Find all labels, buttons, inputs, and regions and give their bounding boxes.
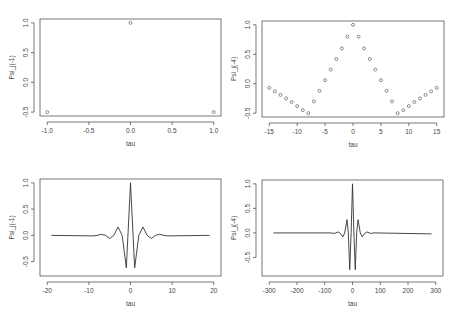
data-point — [329, 68, 332, 71]
y-tick-label: 0.5 — [244, 49, 251, 58]
y-tick-label: 0.0 — [22, 77, 29, 86]
panel-psi-j-minus4-line: -300-200-1000100200300tau-0.50.00.51.0Ps… — [230, 179, 443, 307]
y-tick-label: -0.5 — [244, 251, 251, 263]
x-tick-label: 0.5 — [168, 127, 177, 134]
data-point — [335, 57, 338, 60]
y-tick-label: 1.0 — [22, 18, 29, 27]
x-tick-label: 5 — [379, 128, 383, 135]
data-point — [352, 23, 355, 26]
x-tick-label: -100 — [318, 287, 331, 294]
y-tick-label: 0.5 — [22, 48, 29, 57]
panel-psi-j-minus1-scatter: -1.0-0.50.00.51.0tau-0.50.00.51.0Psi_j(-… — [8, 18, 221, 147]
data-point — [396, 112, 399, 115]
plot-frame — [262, 21, 444, 117]
y-tick-label: 1.0 — [244, 20, 251, 29]
data-point — [129, 21, 132, 24]
y-axis: -0.50.00.51.0 — [244, 179, 256, 263]
data-point — [212, 111, 215, 114]
y-tick-label: -0.5 — [22, 256, 29, 268]
x-tick-label: -15 — [265, 128, 275, 135]
data-point — [391, 100, 394, 103]
x-tick-label: 15 — [433, 128, 441, 135]
data-point — [413, 100, 416, 103]
data-points — [268, 23, 438, 114]
y-tick-label: -0.5 — [22, 106, 29, 118]
y-tick-label: 0.0 — [244, 228, 251, 237]
data-point — [385, 89, 388, 92]
data-point — [273, 90, 276, 93]
x-tick-label: 200 — [403, 287, 414, 294]
data-point — [279, 93, 282, 96]
y-axis-label: Psi_j(-1) — [8, 215, 16, 239]
y-tick-label: 0.5 — [22, 204, 29, 213]
data-point — [268, 86, 271, 89]
y-tick-label: 1.0 — [244, 179, 251, 188]
data-point — [46, 111, 49, 114]
x-tick-label: -10 — [84, 287, 94, 294]
data-points — [46, 21, 216, 113]
y-axis-label: Psi_j(-4) — [230, 216, 238, 240]
x-tick-label: -0.5 — [83, 127, 95, 134]
data-point — [368, 57, 371, 60]
y-axis: -0.50.00.51.0 — [22, 178, 34, 267]
x-tick-label: 0 — [351, 287, 355, 294]
x-axis: -1.0-0.50.00.51.0 — [42, 122, 219, 134]
data-point — [285, 97, 288, 100]
data-line — [273, 184, 431, 270]
data-point — [296, 105, 299, 108]
data-point — [424, 93, 427, 96]
x-tick-label: -20 — [43, 287, 53, 294]
plot-frame — [40, 179, 221, 276]
x-tick-label: -1.0 — [42, 127, 54, 134]
x-axis: -300-200-1000100200300 — [263, 282, 442, 294]
data-point — [340, 47, 343, 50]
data-point — [346, 35, 349, 38]
x-axis: -15-10-5051015 — [265, 123, 441, 135]
y-tick-label: 0.0 — [22, 230, 29, 239]
x-tick-label: -200 — [290, 287, 303, 294]
data-point — [324, 79, 327, 82]
panel-psi-j-minus1-line: -20-1001020tau-0.50.00.51.0Psi_j(-1) — [8, 178, 221, 307]
data-point — [290, 100, 293, 103]
x-tick-label: 10 — [405, 128, 413, 135]
data-point — [363, 47, 366, 50]
x-axis-label: tau — [348, 141, 357, 148]
data-point — [407, 105, 410, 108]
y-axis: -0.50.00.51.0 — [22, 18, 34, 118]
y-axis-label: Psi_j(-1) — [8, 55, 16, 79]
x-tick-label: -300 — [263, 287, 276, 294]
panel-psi-j-minus4-scatter: -15-10-5051015tau-0.50.00.51.0Psi_j(-4) — [230, 20, 444, 148]
y-tick-label: 0.5 — [244, 203, 251, 212]
data-point — [318, 89, 321, 92]
x-tick-label: -5 — [322, 128, 328, 135]
data-line — [51, 183, 209, 268]
x-tick-label: -10 — [292, 128, 302, 135]
x-axis-label: tau — [126, 300, 135, 307]
data-point — [357, 35, 360, 38]
x-tick-label: 0 — [351, 128, 355, 135]
data-point — [402, 109, 405, 112]
x-tick-label: 20 — [210, 287, 218, 294]
x-tick-label: 100 — [375, 287, 386, 294]
data-point — [307, 112, 310, 115]
x-tick-label: 10 — [169, 287, 177, 294]
x-axis: -20-1001020 — [43, 282, 218, 294]
data-point — [374, 68, 377, 71]
plot-frame — [40, 19, 221, 116]
x-axis-label: tau — [126, 140, 135, 147]
y-axis: -0.50.00.51.0 — [244, 20, 256, 119]
data-point — [430, 90, 433, 93]
x-axis-label: tau — [348, 300, 357, 307]
y-axis-label: Psi_j(-4) — [230, 57, 238, 81]
x-tick-label: 300 — [430, 287, 441, 294]
y-tick-label: 0.0 — [244, 79, 251, 88]
data-point — [312, 100, 315, 103]
x-tick-label: 0 — [129, 287, 133, 294]
x-tick-label: 0.0 — [126, 127, 135, 134]
x-tick-label: 1.0 — [209, 127, 218, 134]
data-point — [379, 79, 382, 82]
data-point — [301, 109, 304, 112]
y-tick-label: -0.5 — [244, 107, 251, 119]
wavelet-autocorrelation-figure: -1.0-0.50.00.51.0tau-0.50.00.51.0Psi_j(-… — [0, 0, 458, 315]
y-tick-label: 1.0 — [22, 178, 29, 187]
